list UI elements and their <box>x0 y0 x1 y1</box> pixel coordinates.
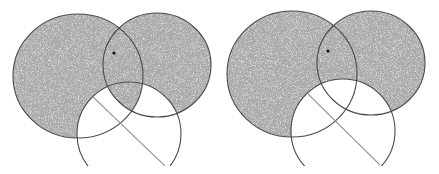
marked-point <box>326 49 329 52</box>
venn-diagram-canvas <box>0 0 439 174</box>
marked-point <box>112 51 115 54</box>
left-figure <box>13 13 211 174</box>
right-figure <box>227 11 425 174</box>
